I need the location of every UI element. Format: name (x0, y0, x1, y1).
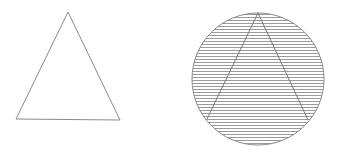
figure-canvas (0, 0, 341, 157)
hatch-lines (192, 15, 324, 144)
hatched-circle (192, 13, 324, 145)
plain-triangle (16, 12, 120, 120)
